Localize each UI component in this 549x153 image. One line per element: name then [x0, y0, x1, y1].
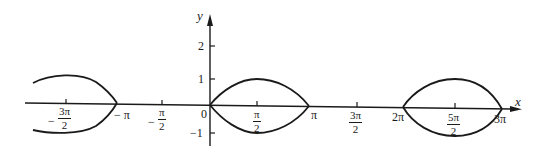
lobe-left-upper	[33, 75, 117, 103]
neg-sign-pi-2: −	[148, 115, 155, 130]
x-tick-label-2pi: 2π	[392, 111, 404, 123]
x-axis-label: x	[515, 95, 521, 108]
fraction-denominator: 2	[253, 122, 261, 134]
y-tick-label-1: 1	[198, 73, 204, 85]
fraction-numerator: π	[158, 107, 166, 120]
lobe-right-upper	[403, 79, 502, 109]
x-tick-label-5pi-2: 5π 2	[447, 112, 460, 137]
lobe-left-lower	[33, 103, 117, 133]
fraction-denominator: 2	[349, 123, 362, 135]
x-tick-label-neg-pi-2: π 2	[158, 107, 166, 132]
x-tick-label-pi-2: π 2	[253, 109, 261, 134]
fraction-numerator: π	[253, 109, 261, 122]
x-tick-label-3pi: 3π	[494, 113, 506, 125]
fraction-denominator: 2	[447, 125, 460, 137]
x-axis	[25, 103, 514, 109]
y-tick-label-2: 2	[198, 40, 204, 52]
x-tick-label-neg-3pi-2: 3π 2	[58, 106, 71, 131]
origin-label: 0	[201, 108, 207, 120]
fraction-numerator: 5π	[447, 112, 460, 125]
x-tick-label-pi: π	[311, 109, 317, 121]
x-tick-label-3pi-2: 3π 2	[349, 110, 362, 135]
x-tick-label-neg-pi: − π	[114, 109, 130, 121]
y-axis-arrow-icon	[207, 14, 213, 26]
neg-sign-3pi-2: −	[48, 114, 55, 129]
fraction-numerator: 3π	[58, 106, 71, 119]
fraction-denominator: 2	[58, 119, 71, 131]
fraction-denominator: 2	[158, 120, 166, 132]
lobe-middle-upper	[210, 79, 309, 106]
y-axis-label: y	[197, 9, 203, 22]
plot-canvas	[0, 0, 549, 153]
y-tick-label-neg1: −1	[190, 127, 203, 139]
fraction-numerator: 3π	[349, 110, 362, 123]
